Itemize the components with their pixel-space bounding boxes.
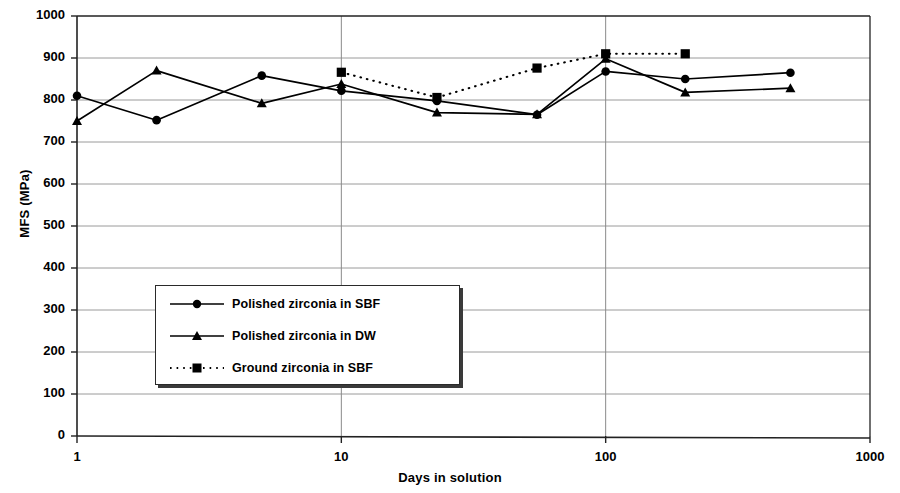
y-tick-label: 400 [11,259,65,274]
data-point [681,75,690,84]
chart-legend: Polished zirconia in SBF Polished zircon… [155,285,460,385]
x-tick-label: 10 [311,449,371,464]
data-point [601,49,610,58]
legend-item-polished-dw: Polished zirconia in DW [168,325,376,347]
y-tick-label: 100 [11,385,65,400]
legend-label: Ground zirconia in SBF [232,361,373,375]
y-axis-title: MFS (MPa) [17,134,32,274]
data-point [72,116,82,125]
plot-area [0,0,900,493]
y-tick-label: 200 [11,343,65,358]
legend-item-ground-sbf: Ground zirconia in SBF [168,357,373,379]
legend-item-polished-sbf: Polished zirconia in SBF [168,293,380,315]
x-tick-label: 1 [47,449,107,464]
legend-swatch-circle-solid [168,295,226,313]
series-line-1 [77,59,790,121]
y-tick-label: 0 [11,427,65,442]
data-point [786,68,795,77]
y-tick-label: 900 [11,49,65,64]
data-point [152,66,162,75]
data-point [152,116,161,125]
y-tick-label: 1000 [11,7,65,22]
y-tick-label: 300 [11,301,65,316]
y-tick-label: 600 [11,175,65,190]
legend-swatch-square-dotted [168,359,226,377]
legend-label: Polished zirconia in SBF [232,297,380,311]
series-line-2 [341,54,685,98]
data-point [73,92,82,101]
y-tick-label: 800 [11,91,65,106]
chart-figure: MFS (MPa) Days in solution 0100200300400… [0,0,900,493]
data-point [601,67,610,76]
y-tick-label: 700 [11,133,65,148]
y-tick-label: 500 [11,217,65,232]
legend-swatch-triangle-solid [168,327,226,345]
x-tick-label: 100 [576,449,636,464]
legend-label: Polished zirconia in DW [232,329,376,343]
data-point [336,79,346,88]
data-point [257,71,266,80]
x-axis-title: Days in solution [0,470,900,485]
data-point [681,49,690,58]
data-point [532,63,541,72]
data-series-layer [72,49,795,125]
data-point [432,93,441,102]
x-tick-label: 1000 [840,449,900,464]
data-point [337,68,346,77]
